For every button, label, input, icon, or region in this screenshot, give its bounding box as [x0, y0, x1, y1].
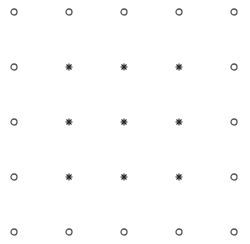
star-marker-icon	[65, 63, 74, 72]
open-circle-icon	[120, 8, 129, 17]
star-marker-icon	[175, 118, 184, 127]
open-circle-icon	[175, 8, 184, 17]
open-circle-icon	[10, 63, 19, 72]
open-circle-icon	[65, 228, 74, 237]
open-circle-icon	[230, 8, 239, 17]
star-marker-icon	[175, 173, 184, 182]
star-marker-icon	[65, 173, 74, 182]
open-circle-icon	[10, 173, 19, 182]
open-circle-icon	[10, 118, 19, 127]
open-circle-icon	[120, 228, 129, 237]
open-circle-icon	[10, 228, 19, 237]
open-circle-icon	[230, 228, 239, 237]
star-marker-icon	[120, 173, 129, 182]
star-marker-icon	[120, 118, 129, 127]
open-circle-icon	[230, 63, 239, 72]
open-circle-icon	[10, 8, 19, 17]
open-circle-icon	[175, 228, 184, 237]
open-circle-icon	[230, 118, 239, 127]
star-marker-icon	[120, 63, 129, 72]
open-circle-icon	[230, 173, 239, 182]
star-marker-icon	[65, 118, 74, 127]
star-marker-icon	[175, 63, 184, 72]
open-circle-icon	[65, 8, 74, 17]
